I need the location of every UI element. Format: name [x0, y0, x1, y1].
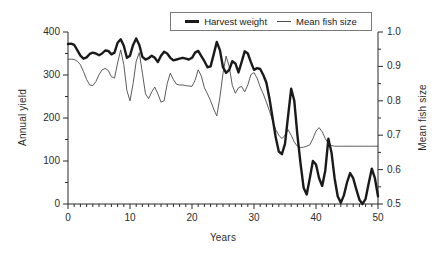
x-axis-title: Years	[68, 232, 378, 243]
left-axis-ticks	[63, 32, 68, 204]
x-tick-label: 50	[360, 212, 396, 223]
y-tick-label-left: 300	[26, 69, 60, 80]
chart-figure: Annual yield Mean fish size Years 010020…	[0, 0, 443, 256]
legend-swatch-mean-fish-size-icon	[277, 21, 291, 22]
y-tick-label-left: 0	[26, 198, 60, 209]
y-tick-label-right: 0.6	[387, 164, 421, 175]
y-tick-label-left: 100	[26, 155, 60, 166]
y-tick-label-right: 0.7	[387, 129, 421, 140]
legend-label-harvest-weight: Harvest weight	[204, 16, 267, 27]
y-tick-label-right: 0.5	[387, 198, 421, 209]
x-tick-label: 20	[174, 212, 210, 223]
x-tick-label: 30	[236, 212, 272, 223]
x-tick-label: 0	[50, 212, 86, 223]
legend-swatch-harvest-weight-icon	[185, 20, 199, 23]
legend-entry-harvest-weight: Harvest weight	[185, 16, 267, 27]
series-line-harvest-weight	[68, 38, 378, 204]
axis-lines	[68, 32, 378, 204]
x-tick-label: 40	[298, 212, 334, 223]
chart-legend: Harvest weight Mean fish size	[170, 12, 372, 31]
y-tick-label-left: 400	[26, 26, 60, 37]
bottom-axis-ticks	[68, 204, 378, 209]
right-axis-ticks	[378, 32, 383, 204]
legend-entry-mean-fish-size: Mean fish size	[277, 16, 357, 27]
y-tick-label-right: 0.8	[387, 95, 421, 106]
y-tick-label-left: 200	[26, 112, 60, 123]
y-tick-label-right: 1.0	[387, 26, 421, 37]
x-tick-label: 10	[112, 212, 148, 223]
y-tick-label-right: 0.9	[387, 60, 421, 71]
legend-label-mean-fish-size: Mean fish size	[296, 16, 357, 27]
y-axis-right-title: Mean fish size	[417, 58, 428, 178]
